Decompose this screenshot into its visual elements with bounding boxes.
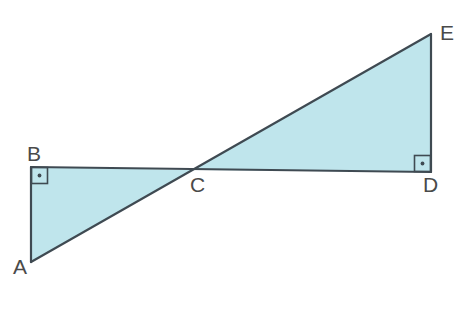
vertex-label-d: D: [423, 174, 438, 195]
vertex-label-e: E: [440, 22, 454, 43]
vertex-label-a: A: [13, 256, 27, 277]
right-angle-dot-d: [421, 162, 425, 166]
geometry-canvas: [0, 0, 472, 326]
geometry-figure: A B C D E: [0, 0, 472, 326]
vertex-label-b: B: [27, 143, 41, 164]
right-angle-dot-b: [38, 174, 42, 178]
vertex-label-c: C: [190, 174, 205, 195]
